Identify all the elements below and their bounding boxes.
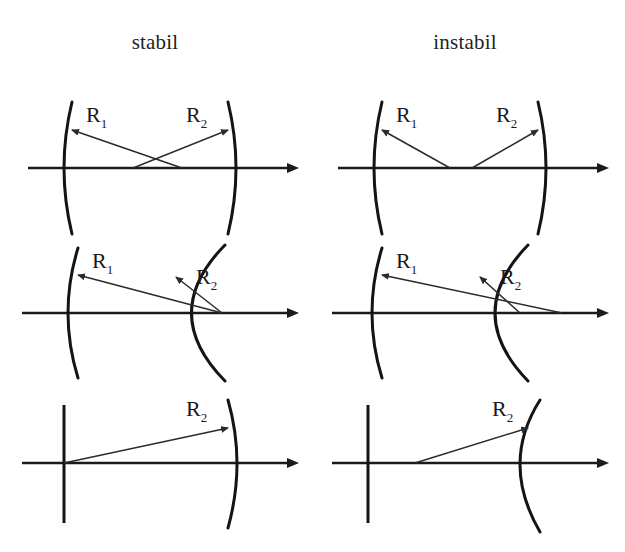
row-1-stable-diagram: R1 R2: [28, 102, 288, 234]
label-r2: R2: [196, 264, 217, 293]
label-r2: R2: [496, 102, 517, 131]
radius-ray-r2: [64, 428, 228, 463]
label-r1: R1: [396, 102, 417, 131]
row-2-unstable-diagram: R1 R2: [332, 245, 598, 381]
label-r1: R1: [92, 248, 113, 277]
radius-ray-r2: [472, 130, 538, 168]
label-r1: R1: [396, 248, 417, 277]
row-2-stable-diagram: R1 R2: [22, 245, 288, 381]
radius-ray-r1: [382, 275, 562, 313]
resonator-diagrams-svg: R1 R2 R1 R2 R1: [0, 0, 625, 552]
label-r2: R2: [500, 264, 521, 293]
mirror-concave-right: [520, 400, 540, 532]
radius-ray-r2: [133, 130, 228, 168]
radius-ray-r1: [382, 130, 450, 168]
label-r1: R1: [86, 102, 107, 131]
resonator-figure: stabil instabil R1 R2: [0, 0, 625, 552]
row-1-unstable-diagram: R1 R2: [338, 102, 598, 234]
label-r2: R2: [186, 396, 207, 425]
radius-ray-r2: [415, 428, 528, 463]
row-3-unstable-diagram: R2: [332, 396, 598, 532]
label-r2: R2: [492, 396, 513, 425]
row-3-stable-diagram: R2: [22, 396, 288, 528]
radius-ray-r1: [72, 130, 182, 168]
label-r2: R2: [186, 102, 207, 131]
